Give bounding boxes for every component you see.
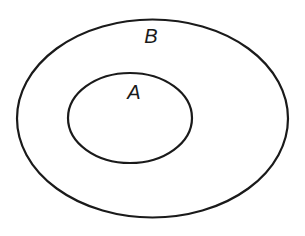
set-b-label: B: [144, 26, 157, 46]
venn-diagram: B A: [0, 0, 305, 236]
set-b-ellipse: [17, 20, 288, 218]
set-a-label: A: [127, 82, 140, 102]
